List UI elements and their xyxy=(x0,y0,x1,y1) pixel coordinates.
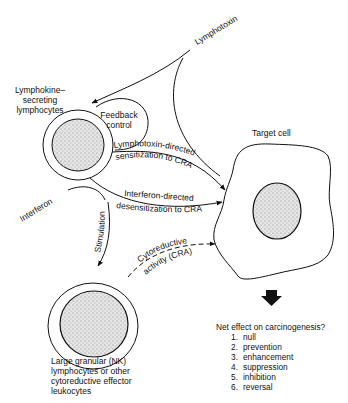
nk-label-line: leukocytes xyxy=(51,386,132,396)
outcome-option: 3.enhancement xyxy=(216,352,325,362)
target-cell-nucleus xyxy=(253,183,301,239)
option-number: 4. xyxy=(224,362,238,372)
outcome-option: 2.prevention xyxy=(216,342,325,352)
nk-label-line: cytoreductive effector xyxy=(51,376,132,386)
option-label: suppression xyxy=(243,362,288,372)
nk-label-line: lymphocytes or other xyxy=(51,366,132,376)
outcome-option: 1.null xyxy=(216,332,325,342)
nk-cell-inner xyxy=(60,291,128,357)
lymphotoxin-label: Lymphotoxin xyxy=(193,13,239,47)
outcome-option: 5.inhibition xyxy=(216,372,325,382)
feedback-label-line: control xyxy=(98,120,140,130)
interferon-label: Interferon xyxy=(18,196,55,224)
target-cell-label: Target cell xyxy=(252,128,291,138)
stimulation-label: Stimulation xyxy=(92,211,107,253)
interferon-line xyxy=(68,187,105,200)
lymphokine-label-line: Lymphokine– xyxy=(8,85,72,95)
option-label: inhibition xyxy=(243,372,276,382)
outcome-option: 4.suppression xyxy=(216,362,325,372)
outcome-list: Net effect on carcinogenesis? 1.null 2.p… xyxy=(216,322,325,392)
lymphokine-cell-inner xyxy=(52,119,104,171)
nk-label-line: Large granular (NK) xyxy=(51,356,132,366)
outcome-arrow-icon xyxy=(261,290,282,306)
option-number: 5. xyxy=(224,372,238,382)
option-label: enhancement xyxy=(243,352,293,362)
lymphokine-label-line: lymphocytes xyxy=(8,105,72,115)
option-number: 6. xyxy=(224,382,238,392)
outcome-question: Net effect on carcinogenesis? xyxy=(216,322,325,332)
option-label: reversal xyxy=(243,382,273,392)
feedback-label-line: Feedback xyxy=(98,110,140,120)
option-label: prevention xyxy=(243,342,282,352)
feedback-control-label: Feedback control xyxy=(98,110,140,130)
lymphokine-cells-label: Lymphokine– secreting lymphocytes xyxy=(8,85,72,115)
option-number: 3. xyxy=(224,352,238,362)
nk-cells-label: Large granular (NK) lymphocytes or other… xyxy=(51,356,132,396)
option-number: 1. xyxy=(224,332,238,342)
outcome-option: 6.reversal xyxy=(216,382,325,392)
lymphokine-label-line: secreting xyxy=(8,95,72,105)
option-label: null xyxy=(243,332,256,342)
option-number: 2. xyxy=(224,342,238,352)
